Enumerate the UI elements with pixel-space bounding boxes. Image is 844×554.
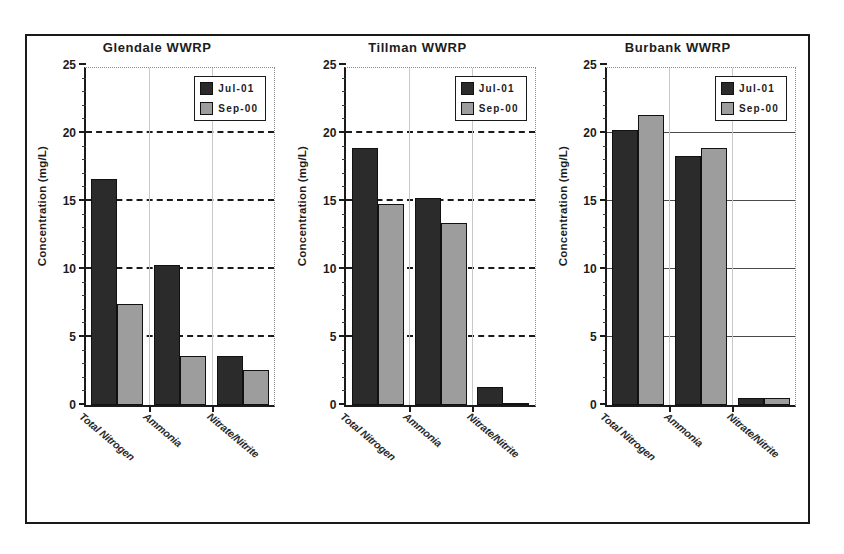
legend-label: Jul-01: [739, 83, 775, 94]
legend-swatch-icon: [200, 82, 213, 95]
y-tick-label: 5: [590, 330, 597, 344]
chart-panel-2: Burbank WWRPConcentration (mg/L)05101520…: [548, 36, 808, 522]
figure-frame: Glendale WWRPConcentration (mg/L)0510152…: [25, 34, 810, 524]
legend-label: Jul-01: [479, 83, 515, 94]
y-axis-title-text: Concentration (mg/L): [36, 146, 48, 266]
x-axis-label: Nitrate/Nitrite: [465, 410, 521, 460]
bar-sep00[interactable]: [243, 370, 269, 405]
legend-label: Sep-00: [218, 103, 258, 114]
legend-item[interactable]: Sep-00: [461, 102, 519, 115]
bar-sep00[interactable]: [441, 223, 467, 405]
x-axis-label: Total Nitrogen: [338, 410, 398, 463]
x-axis-label: Ammonia: [662, 410, 705, 449]
y-axis-title: Concentration (mg/L): [33, 36, 51, 376]
y-major-tick: [79, 131, 86, 133]
x-axis-labels: Total NitrogenAmmoniaNitrate/Nitrite: [84, 410, 275, 520]
legend-swatch-icon: [200, 102, 213, 115]
bar-jul01[interactable]: [675, 156, 701, 405]
bar-jul01[interactable]: [415, 198, 441, 405]
y-tick-label: 25: [583, 58, 596, 72]
y-tick-label: 10: [323, 262, 336, 276]
x-axis-label: Total Nitrogen: [78, 410, 138, 463]
y-axis-title-text: Concentration (mg/L): [296, 146, 308, 266]
y-tick-label: 5: [330, 330, 337, 344]
y-major-tick: [79, 335, 86, 337]
x-axis-label: Nitrate/Nitrite: [205, 410, 261, 460]
chart-title: Tillman WWRP: [287, 40, 547, 55]
chart-title: Glendale WWRP: [27, 40, 287, 55]
legend-label: Sep-00: [739, 103, 779, 114]
legend-label: Jul-01: [218, 83, 254, 94]
plot-area: 0510152025Jul-01Sep-00: [84, 67, 275, 407]
bar-sep00[interactable]: [378, 204, 404, 405]
y-axis-title-text: Concentration (mg/L): [557, 146, 569, 266]
y-major-tick: [339, 131, 346, 133]
y-tick-label: 20: [583, 126, 596, 140]
y-major-tick: [339, 335, 346, 337]
plot-area: 0510152025Jul-01Sep-00: [344, 67, 535, 407]
y-tick-label: 15: [63, 194, 76, 208]
legend-item[interactable]: Jul-01: [461, 82, 519, 95]
y-tick-label: 20: [323, 126, 336, 140]
legend-item[interactable]: Jul-01: [200, 82, 258, 95]
bar-jul01[interactable]: [352, 148, 378, 405]
y-major-tick: [600, 267, 607, 269]
bar-jul01[interactable]: [91, 179, 117, 405]
bar-sep00[interactable]: [180, 356, 206, 405]
chart-panel-0: Glendale WWRPConcentration (mg/L)0510152…: [27, 36, 287, 522]
legend-swatch-icon: [461, 102, 474, 115]
bar-jul01[interactable]: [217, 356, 243, 405]
y-major-tick: [79, 267, 86, 269]
bar-sep00[interactable]: [638, 115, 664, 405]
bar-sep00[interactable]: [503, 403, 529, 405]
y-major-tick: [339, 199, 346, 201]
legend-item[interactable]: Jul-01: [721, 82, 779, 95]
y-major-tick: [600, 131, 607, 133]
x-axis-label: Ammonia: [141, 410, 184, 449]
x-axis-labels: Total NitrogenAmmoniaNitrate/Nitrite: [344, 410, 535, 520]
y-major-tick: [600, 403, 607, 405]
bar-sep00[interactable]: [117, 304, 143, 405]
legend-item[interactable]: Sep-00: [200, 102, 258, 115]
y-tick-label: 15: [583, 194, 596, 208]
x-axis-label: Ammonia: [402, 410, 445, 449]
legend: Jul-01Sep-00: [715, 76, 787, 121]
x-axis-label: Total Nitrogen: [598, 410, 658, 463]
bar-jul01[interactable]: [612, 130, 638, 405]
y-major-tick: [79, 199, 86, 201]
y-major-tick: [339, 267, 346, 269]
y-tick-label: 25: [323, 58, 336, 72]
y-major-tick: [339, 403, 346, 405]
chart-panels-container: Glendale WWRPConcentration (mg/L)0510152…: [27, 36, 808, 522]
y-tick-label: 15: [323, 194, 336, 208]
legend: Jul-01Sep-00: [455, 76, 527, 121]
y-major-tick: [600, 63, 607, 65]
x-axis-label: Nitrate/Nitrite: [726, 410, 782, 460]
legend-label: Sep-00: [479, 103, 519, 114]
y-major-tick: [79, 403, 86, 405]
bar-jul01[interactable]: [738, 398, 764, 405]
bar-sep00[interactable]: [701, 148, 727, 405]
legend-swatch-icon: [721, 82, 734, 95]
bar-group: [607, 68, 670, 405]
bar-sep00[interactable]: [764, 398, 790, 405]
legend: Jul-01Sep-00: [194, 76, 266, 121]
bar-jul01[interactable]: [154, 265, 180, 405]
plot-box: 0510152025Jul-01Sep-00: [84, 67, 275, 407]
legend-swatch-icon: [721, 102, 734, 115]
chart-title: Burbank WWRP: [548, 40, 808, 55]
y-tick-label: 5: [69, 330, 76, 344]
x-axis-labels: Total NitrogenAmmoniaNitrate/Nitrite: [605, 410, 796, 520]
y-tick-label: 0: [590, 398, 597, 412]
plot-box: 0510152025Jul-01Sep-00: [605, 67, 796, 407]
y-tick-label: 10: [63, 262, 76, 276]
bar-group: [346, 68, 409, 405]
y-major-tick: [339, 63, 346, 65]
y-major-tick: [600, 335, 607, 337]
legend-item[interactable]: Sep-00: [721, 102, 779, 115]
bar-group: [86, 68, 149, 405]
y-tick-label: 0: [330, 398, 337, 412]
y-tick-label: 10: [583, 262, 596, 276]
plot-area: 0510152025Jul-01Sep-00: [605, 67, 796, 407]
bar-jul01[interactable]: [477, 387, 503, 405]
